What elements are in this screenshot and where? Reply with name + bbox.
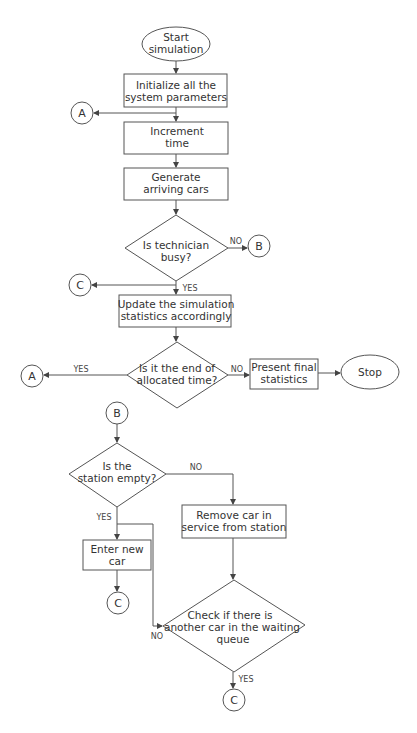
connector-a-1: A (71, 102, 93, 124)
present-line1: Present final (251, 361, 316, 373)
connector-b-label: B (255, 240, 263, 253)
end-time-line1: Is it the end of (139, 362, 215, 374)
remove-process: Remove car in service from station (182, 505, 287, 538)
connector-a-label: A (28, 370, 36, 383)
enter-line2: car (109, 555, 126, 567)
connector-a-label: A (78, 107, 86, 120)
tech-busy-line2: busy? (161, 251, 192, 263)
stop-label: Stop (358, 366, 382, 378)
connector-b-2: B (106, 402, 128, 424)
end-yes-label: YES (72, 365, 88, 374)
tech-busy-decision: Is technician busy? (125, 215, 228, 281)
station-empty-line2: station empty? (78, 472, 157, 484)
enter-line1: Enter new (90, 543, 144, 555)
init-line1: Initialize all the (136, 79, 216, 91)
connector-c-label: C (230, 694, 238, 707)
update-process: Update the simulation statistics accordi… (118, 295, 235, 327)
generate-line1: Generate (151, 171, 200, 183)
connector-b-label: B (113, 407, 121, 420)
remove-line2: service from station (182, 521, 287, 533)
end-time-line2: allocated time? (137, 374, 218, 386)
connector-c-3: C (223, 689, 245, 711)
enter-process: Enter new car (83, 540, 151, 570)
connector-c-label: C (114, 597, 122, 610)
increment-process: Increment time (124, 122, 228, 154)
start-line1: Start (163, 31, 189, 43)
remove-line1: Remove car in (196, 509, 271, 521)
check-queue-line1: Check if there is (187, 609, 272, 621)
connector-a-2: A (21, 365, 43, 387)
tech-no-label: NO (230, 237, 242, 246)
station-yes-label: YES (95, 513, 111, 522)
connector-c-label: C (76, 279, 84, 292)
connector-b-1: B (248, 235, 270, 257)
queue-no-label: NO (151, 632, 163, 641)
end-time-decision: Is it the end of allocated time? (127, 342, 228, 408)
start-line2: simulation (149, 43, 204, 55)
flowchart: Start simulation Initialize all the syst… (0, 0, 417, 733)
tech-busy-line1: Is technician (143, 239, 209, 251)
init-line2: system parameters (125, 91, 227, 103)
increment-line1: Increment (150, 125, 204, 137)
check-queue-decision: Check if there is another car in the wai… (163, 580, 305, 672)
tech-yes-label: YES (181, 284, 197, 293)
generate-line2: arriving cars (143, 183, 209, 195)
check-queue-line2: another car in the waiting (164, 621, 300, 633)
connector-c-2: C (107, 592, 129, 614)
generate-process: Generate arriving cars (124, 168, 228, 200)
end-no-label: NO (231, 365, 243, 374)
start-terminal: Start simulation (142, 27, 210, 61)
check-queue-line3: queue (217, 633, 250, 645)
update-line1: Update the simulation (118, 298, 235, 310)
connector-c-1: C (69, 274, 91, 296)
station-empty-decision: Is the station empty? (69, 443, 166, 507)
stop-terminal: Stop (341, 355, 399, 389)
station-no-label: NO (190, 463, 202, 472)
present-line2: statistics (261, 373, 308, 385)
update-line2: statistics accordingly (121, 310, 232, 322)
increment-line2: time (165, 137, 189, 149)
edge-station-no-remove (166, 474, 233, 504)
station-empty-line1: Is the (102, 460, 131, 472)
queue-yes-label: YES (237, 675, 253, 684)
init-process: Initialize all the system parameters (124, 74, 227, 107)
present-process: Present final statistics (250, 359, 318, 389)
